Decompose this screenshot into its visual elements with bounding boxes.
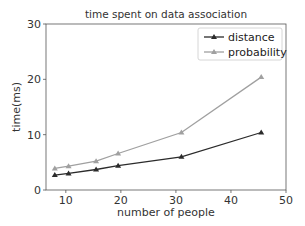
legend-label-distance: distance <box>228 31 275 44</box>
series-distance <box>52 129 264 177</box>
y-axis: 0102030 <box>27 18 46 197</box>
chart-title: time spent on data association <box>85 8 247 20</box>
y-tick-label: 0 <box>34 184 41 197</box>
x-axis-label: number of people <box>117 206 215 219</box>
triangle-marker-icon <box>258 129 264 134</box>
line-chart: time spent on data association 0102030 1… <box>0 0 305 226</box>
x-tick-label: 40 <box>224 194 238 207</box>
x-axis: 1020304050 <box>59 190 293 207</box>
series-layer <box>52 74 264 177</box>
series-line <box>55 133 261 176</box>
triangle-marker-icon <box>178 129 184 134</box>
x-tick-label: 50 <box>279 194 293 207</box>
x-tick-label: 10 <box>59 194 73 207</box>
y-axis-label: time(ms) <box>10 82 23 132</box>
triangle-marker-icon <box>258 74 264 79</box>
y-tick-label: 20 <box>27 73 41 86</box>
legend-label-probability: probability <box>228 46 287 59</box>
series-line <box>55 77 261 168</box>
y-tick-label: 10 <box>27 129 41 142</box>
legend: distance probability <box>198 28 287 60</box>
y-tick-label: 30 <box>27 18 41 31</box>
series-probability <box>52 74 264 170</box>
